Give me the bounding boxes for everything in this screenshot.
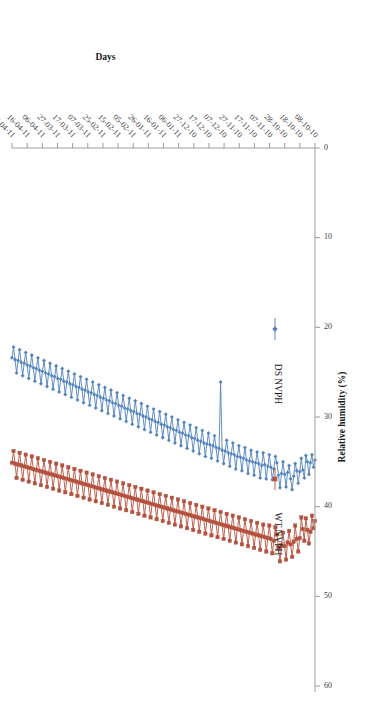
series-marker bbox=[54, 364, 58, 368]
series-marker bbox=[301, 468, 305, 472]
series-marker bbox=[303, 539, 306, 542]
series-marker bbox=[185, 526, 188, 529]
series-marker bbox=[228, 465, 232, 469]
series-marker bbox=[127, 396, 131, 400]
series-marker bbox=[88, 404, 92, 408]
legend-swatch-marker bbox=[273, 327, 277, 331]
series-marker bbox=[228, 539, 231, 542]
series-marker bbox=[159, 422, 163, 426]
series-marker bbox=[170, 415, 174, 419]
series-marker bbox=[51, 387, 55, 391]
series-marker bbox=[261, 451, 265, 455]
series-ds-nvph bbox=[10, 345, 317, 491]
legend-layer: DS NVPHWT NVPH bbox=[273, 318, 283, 556]
series-marker bbox=[73, 372, 77, 376]
series-marker bbox=[156, 421, 160, 425]
series-marker bbox=[205, 442, 209, 446]
series-marker bbox=[287, 464, 291, 468]
chart-figure-inner: 0102030405060Relative humidity (%)08-10-… bbox=[0, 0, 367, 714]
series-marker bbox=[249, 448, 253, 452]
series-marker bbox=[137, 425, 141, 429]
series-marker bbox=[275, 461, 279, 465]
series-marker bbox=[278, 486, 282, 490]
series-marker bbox=[201, 429, 205, 433]
series-marker bbox=[138, 413, 142, 417]
series-marker bbox=[125, 509, 128, 512]
series-marker bbox=[236, 455, 240, 459]
series-marker bbox=[85, 471, 88, 474]
series-marker bbox=[290, 555, 293, 558]
series-marker bbox=[45, 385, 49, 389]
series-marker bbox=[21, 374, 25, 378]
series-marker bbox=[77, 386, 81, 390]
series-marker bbox=[64, 491, 67, 494]
series-marker bbox=[246, 472, 250, 476]
series-marker bbox=[124, 420, 128, 424]
series-marker bbox=[82, 496, 85, 499]
series-marker bbox=[82, 401, 86, 405]
series-marker bbox=[237, 444, 241, 448]
legend-swatch-marker bbox=[273, 477, 277, 481]
series-marker bbox=[166, 425, 170, 429]
legend-item-wt-nvph[interactable]: WT NVPH bbox=[273, 468, 283, 556]
series-marker bbox=[118, 507, 121, 510]
series-marker bbox=[15, 371, 19, 375]
series-marker bbox=[191, 449, 195, 453]
series-marker bbox=[292, 474, 296, 478]
series-marker bbox=[231, 514, 234, 517]
series-marker bbox=[210, 534, 213, 537]
series-marker bbox=[277, 474, 281, 478]
series-marker bbox=[239, 456, 243, 460]
series-marker bbox=[176, 498, 179, 501]
series-marker bbox=[57, 390, 61, 394]
series-marker bbox=[211, 444, 215, 448]
series-marker bbox=[175, 429, 179, 433]
series-marker bbox=[266, 465, 270, 469]
legend-label: DS NVPH bbox=[273, 364, 283, 405]
series-marker bbox=[233, 453, 237, 457]
series-marker bbox=[42, 359, 46, 363]
series-marker bbox=[204, 455, 208, 459]
series-marker bbox=[300, 516, 303, 519]
series-marker bbox=[100, 409, 104, 413]
series-marker bbox=[164, 413, 168, 417]
series-marker bbox=[216, 459, 220, 463]
series-marker bbox=[278, 560, 281, 563]
series-marker bbox=[219, 380, 223, 384]
series-marker bbox=[16, 359, 20, 363]
series-marker bbox=[64, 393, 68, 397]
series-marker bbox=[39, 483, 42, 486]
series-marker bbox=[27, 377, 31, 381]
series-marker bbox=[301, 527, 304, 530]
series-marker bbox=[167, 521, 170, 524]
series-marker bbox=[204, 532, 207, 535]
series-marker bbox=[106, 503, 109, 506]
series-marker bbox=[225, 512, 228, 515]
series-marker bbox=[251, 460, 255, 464]
series-marker bbox=[306, 460, 310, 464]
series-marker bbox=[80, 387, 84, 391]
series-marker bbox=[216, 535, 219, 538]
series-marker bbox=[229, 452, 233, 456]
series-marker bbox=[248, 459, 252, 463]
series-marker bbox=[67, 370, 71, 374]
series-marker bbox=[39, 382, 43, 386]
series-marker bbox=[199, 439, 203, 443]
series-marker bbox=[121, 394, 125, 398]
x-axis-title: Days bbox=[95, 52, 115, 62]
series-marker bbox=[208, 443, 212, 447]
series-marker bbox=[295, 469, 299, 473]
series-marker bbox=[15, 476, 18, 479]
series-marker bbox=[18, 348, 22, 352]
legend-item-ds-nvph[interactable]: DS NVPH bbox=[273, 318, 283, 404]
series-marker bbox=[210, 456, 214, 460]
y-axis-tick-label: 30 bbox=[324, 412, 332, 421]
series-marker bbox=[137, 512, 140, 515]
y-axis-tick-label: 20 bbox=[324, 322, 332, 331]
series-marker bbox=[268, 524, 271, 527]
series-marker bbox=[96, 394, 100, 398]
series-marker bbox=[68, 382, 72, 386]
series-marker bbox=[242, 456, 246, 460]
series-marker bbox=[303, 476, 307, 480]
series-marker bbox=[158, 410, 162, 414]
